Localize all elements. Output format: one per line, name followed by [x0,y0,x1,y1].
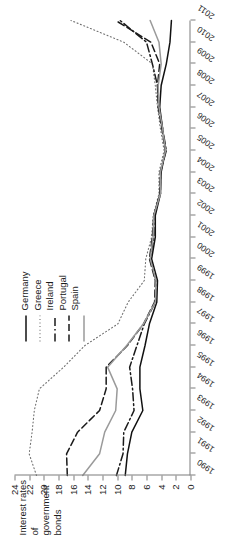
legend-label-ireland: Ireland [43,271,56,310]
legend-key-swatches [18,315,88,341]
x-tick-label: 1998 [195,284,216,303]
x-tick [190,257,195,258]
x-tick-label: 1996 [195,327,216,346]
y-tick [175,475,176,480]
x-tick [190,62,195,63]
x-tick-label: 2004 [195,154,216,173]
x-tick [190,106,195,107]
x-tick-label: 2006 [195,110,216,129]
x-tick-label: 2005 [195,132,216,151]
legend-key-ireland [50,315,59,341]
x-tick [190,84,195,85]
rotated-figure-wrapper: Interest rates of government bonds 19901… [0,0,250,537]
y-tick [29,475,30,480]
x-tick-label: 1995 [195,349,216,368]
x-tick [190,19,195,20]
x-tick-label: 1999 [195,262,216,281]
y-tick-label: 12 [96,484,107,495]
y-tick-label: 4 [155,484,166,489]
y-tick [14,475,15,480]
x-tick-label: 1991 [195,435,216,454]
y-tick [131,475,132,480]
y-tick [87,475,88,480]
y-tick-label: 24 [8,484,19,495]
line-chart-figure: Interest rates of government bonds 19901… [0,0,250,537]
x-tick-label: 1994 [195,370,216,389]
y-tick [58,475,59,480]
x-tick [190,452,195,453]
y-tick [146,475,147,480]
x-tick-label: 2001 [195,219,216,238]
plot-area: 1990199119921993199419951996199719981999… [14,20,190,475]
x-tick [190,41,195,42]
y-tick-label: 6 [140,484,151,489]
y-tick [43,475,44,480]
y-tick-label: 22 [23,484,34,495]
x-tick [190,322,195,323]
x-tick-label: 2008 [195,67,216,86]
x-tick [190,366,195,367]
x-tick [190,236,195,237]
legend-label-spain: Spain [68,271,81,310]
x-tick [190,409,195,410]
x-tick [190,171,195,172]
series-line [29,20,164,475]
x-axis-line [189,20,190,475]
x-tick-label: 1997 [195,305,216,324]
y-tick [73,475,74,480]
x-tick-label: 2007 [195,89,216,108]
series-line [125,20,171,475]
y-tick-label: 2 [170,484,181,489]
y-tick-label: 8 [126,484,137,489]
x-tick [190,344,195,345]
legend-key-spain [79,315,88,341]
x-tick [190,387,195,388]
y-tick-label: 20 [38,484,49,495]
x-tick-label: 1993 [195,392,216,411]
legend-label-greece: Greece [31,271,44,310]
legend: GermanyGreeceIrelandPortugalSpain [18,271,88,341]
x-tick [190,301,195,302]
y-tick-label: 10 [111,484,122,495]
y-tick-label: 16 [67,484,78,495]
y-tick-label: 14 [82,484,93,495]
x-tick-label: 2010 [195,24,216,43]
x-tick [190,431,195,432]
y-tick [117,475,118,480]
x-tick-label: 2003 [195,175,216,194]
legend-label-germany: Germany [18,271,31,310]
x-tick-label: 2011 [195,2,216,21]
y-tick-label: 18 [52,484,63,495]
x-tick [190,279,195,280]
x-tick-label: 1992 [195,414,216,433]
legend-key-germany [21,315,30,341]
x-tick [190,192,195,193]
legend-key-portugal [64,315,73,341]
x-tick-label: 2000 [195,240,216,259]
x-tick-label: 2002 [195,197,216,216]
x-tick-label: 1990 [195,457,216,476]
x-tick [190,149,195,150]
series-lines [14,20,190,475]
y-tick [190,475,191,480]
x-tick [190,127,195,128]
y-tick [161,475,162,480]
x-tick [190,214,195,215]
y-tick-label: 0 [184,484,195,489]
legend-key-greece [35,315,44,341]
y-tick [102,475,103,480]
legend-labels: GermanyGreeceIrelandPortugalSpain [18,271,81,310]
legend-label-portugal: Portugal [56,271,69,310]
x-tick-label: 2009 [195,45,216,64]
